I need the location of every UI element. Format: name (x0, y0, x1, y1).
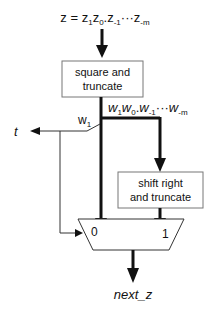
input-z-label: z = z1z0.z-1···z-m (60, 10, 150, 27)
shift-box-line2: and truncate (130, 191, 191, 203)
next-z-label: next_z (114, 287, 153, 302)
mux-input1-label: 1 (162, 227, 169, 241)
output-arrow (127, 250, 139, 283)
square-truncate-box: square and truncate (62, 61, 143, 97)
input-arrow (96, 29, 108, 58)
multiplexer: 0 1 (78, 219, 184, 250)
square-box-line2: truncate (83, 80, 123, 92)
mux-input0-label: 0 (91, 225, 98, 239)
select-arrowhead-icon (75, 229, 83, 237)
w-bits-label: w1w0.w-1···w-m (108, 100, 188, 117)
t-arrowhead-icon (30, 127, 40, 135)
mux-datapath-diagram: z = z1z0.z-1···z-m square and truncate w… (0, 0, 212, 317)
branch-wire (101, 117, 166, 172)
shift-box-arrowhead-icon (154, 158, 166, 172)
square-box-line1: square and (75, 66, 130, 78)
t-label: t (14, 124, 19, 139)
w1-label: w1 (77, 113, 92, 129)
shift-box-line1: shift right (138, 177, 183, 189)
shift-truncate-box: shift right and truncate (118, 172, 203, 208)
